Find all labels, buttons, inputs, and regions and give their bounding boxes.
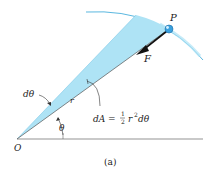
- area-formula-lhs: dA =: [93, 114, 119, 124]
- particle-p: [165, 25, 173, 33]
- label-theta: θ: [59, 123, 65, 133]
- label-f: F: [143, 53, 152, 64]
- particle-highlight: [166, 26, 169, 29]
- area-formula-r: r: [128, 114, 133, 124]
- label-dtheta: dθ: [23, 89, 35, 99]
- label-p: P: [169, 12, 177, 23]
- figure-caption: (a): [104, 157, 116, 167]
- area-formula-dtheta: dθ: [138, 114, 150, 124]
- dtheta-leader: [39, 95, 50, 104]
- area-formula-denominator: 2: [121, 118, 125, 125]
- kepler-area-diagram: P F O r θ dθ dA = 1 2 r 2 dθ (a): [0, 0, 212, 173]
- diagram-canvas: P F O r θ dθ dA = 1 2 r 2 dθ (a): [0, 0, 212, 173]
- label-o: O: [14, 143, 22, 153]
- area-formula-numerator: 1: [121, 110, 125, 117]
